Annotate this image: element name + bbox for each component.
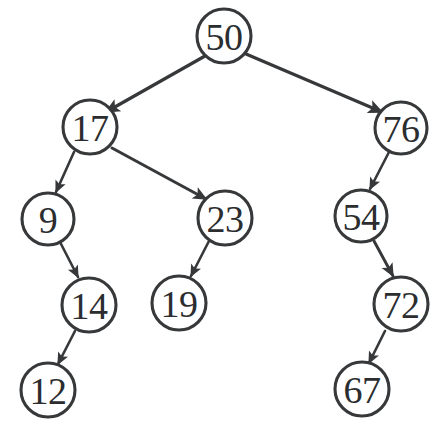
tree-node-label-19: 19 bbox=[161, 283, 198, 325]
tree-edge-n72-to-n67 bbox=[369, 331, 385, 363]
tree-edge-n9-to-n14 bbox=[60, 242, 78, 277]
tree-node-label-67: 67 bbox=[344, 369, 381, 411]
tree-node-12[interactable]: 12 bbox=[21, 363, 75, 417]
binary-tree-diagram: 501776923541419721267 bbox=[0, 0, 442, 437]
tree-node-19[interactable]: 19 bbox=[152, 276, 206, 330]
tree-node-label-54: 54 bbox=[343, 196, 381, 238]
tree-node-72[interactable]: 72 bbox=[374, 277, 428, 331]
nodes-layer: 501776923541419721267 bbox=[21, 9, 428, 417]
tree-edge-n17-to-n23 bbox=[112, 148, 206, 199]
tree-node-label-23: 23 bbox=[207, 198, 244, 240]
tree-node-label-17: 17 bbox=[72, 107, 109, 149]
tree-node-50[interactable]: 50 bbox=[197, 9, 251, 63]
tree-node-9[interactable]: 9 bbox=[22, 193, 74, 245]
tree-node-76[interactable]: 76 bbox=[375, 102, 427, 154]
tree-node-label-14: 14 bbox=[71, 285, 109, 327]
tree-edge-n14-to-n12 bbox=[58, 331, 75, 364]
tree-node-label-72: 72 bbox=[383, 284, 420, 326]
tree-node-label-76: 76 bbox=[383, 108, 420, 150]
tree-node-label-50: 50 bbox=[206, 16, 243, 58]
tree-edge-n50-to-n76 bbox=[246, 54, 382, 112]
tree-edge-n54-to-n72 bbox=[374, 241, 393, 276]
tree-edge-n23-to-n19 bbox=[191, 241, 209, 276]
tree-canvas: 501776923541419721267 bbox=[0, 0, 442, 437]
tree-node-label-12: 12 bbox=[30, 370, 67, 412]
tree-node-label-9: 9 bbox=[39, 199, 58, 241]
tree-node-67[interactable]: 67 bbox=[335, 362, 389, 416]
tree-node-54[interactable]: 54 bbox=[335, 190, 387, 242]
tree-node-14[interactable]: 14 bbox=[62, 278, 116, 332]
tree-node-23[interactable]: 23 bbox=[198, 191, 252, 245]
tree-edge-n50-to-n17 bbox=[106, 56, 205, 112]
tree-edge-n76-to-n54 bbox=[370, 152, 389, 189]
tree-node-17[interactable]: 17 bbox=[63, 100, 117, 154]
tree-edge-n17-to-n9 bbox=[56, 152, 74, 192]
cropped-caption-fragment bbox=[0, 427, 442, 437]
